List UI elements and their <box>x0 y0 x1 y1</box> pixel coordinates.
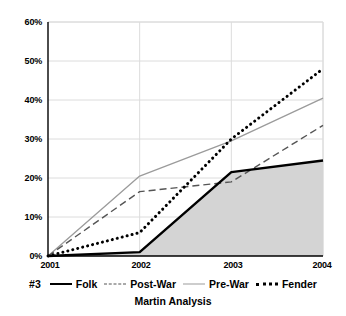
legend-swatch-post-war-icon <box>104 279 126 289</box>
legend-label-post-war: Post-War <box>130 278 176 290</box>
legend-label-fender: Fender <box>282 278 317 290</box>
chart-container: 60% 50% 40% 30% 20% 10% 0% 2001 2002 200… <box>0 0 346 316</box>
area-fill-folk <box>48 160 323 256</box>
x-tick-2003: 2003 <box>223 260 242 270</box>
legend-item-pre-war[interactable]: Pre-War <box>183 278 249 290</box>
legend-series-key: #3 <box>29 278 41 290</box>
legend-item-post-war[interactable]: Post-War <box>104 278 176 290</box>
legend-item-folk[interactable]: Folk <box>50 278 98 290</box>
x-tick-2001: 2001 <box>40 260 59 270</box>
x-tick-2004: 2004 <box>312 260 331 270</box>
x-tick-2002: 2002 <box>131 260 150 270</box>
legend-label-folk: Folk <box>76 278 98 290</box>
chart-subtitle: Martin Analysis <box>0 295 346 307</box>
legend-swatch-fender-icon <box>256 279 278 289</box>
legend-swatch-pre-war-icon <box>183 279 205 289</box>
legend-label-pre-war: Pre-War <box>209 278 249 290</box>
legend-swatch-folk-icon <box>50 279 72 289</box>
chart-legend: #3 Folk Post-War Pre-War Fender <box>0 278 346 290</box>
legend-item-fender[interactable]: Fender <box>256 278 317 290</box>
